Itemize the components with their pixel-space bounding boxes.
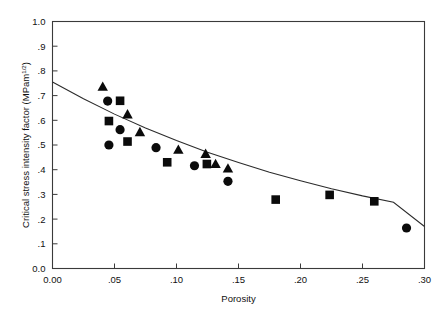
- data-point-circle-4: [190, 161, 199, 170]
- x-axis-title: Porosity: [221, 293, 256, 304]
- y-tick-label-9: .9: [38, 41, 46, 52]
- data-point-square-6: [325, 191, 334, 200]
- y-axis-title: Critical stress intensity factor (MPam1/…: [20, 62, 31, 228]
- y-tick-label-6: .6: [38, 115, 46, 126]
- x-tick-label-6: .30: [418, 274, 431, 285]
- y-tick-label-4: .4: [38, 164, 46, 175]
- data-point-square-4: [203, 160, 212, 169]
- y-tick-label-0: 0.0: [32, 263, 45, 274]
- data-point-circle-2: [115, 125, 124, 134]
- data-point-square-1: [116, 96, 125, 105]
- series-square-series: [105, 96, 379, 205]
- y-axis-title-main: Critical stress intensity factor (MPam: [20, 74, 31, 228]
- scatter-plot: 0.0.1.2.3.4.5.6.7.8.91.00.00.05.10.15.20…: [0, 0, 443, 314]
- data-point-circle-1: [104, 140, 113, 149]
- figure-container: 0.0.1.2.3.4.5.6.7.8.91.00.00.05.10.15.20…: [0, 0, 443, 314]
- data-point-triangle-2: [135, 127, 145, 136]
- data-point-square-0: [105, 117, 114, 126]
- y-tick-label-8: .8: [38, 65, 46, 76]
- data-point-square-5: [271, 195, 280, 204]
- y-tick-label-7: .7: [38, 90, 46, 101]
- x-tick-label-0: 0.00: [43, 274, 62, 285]
- data-point-triangle-5: [210, 159, 220, 168]
- data-point-circle-0: [103, 96, 112, 105]
- data-point-triangle-1: [122, 109, 132, 118]
- data-point-square-7: [370, 197, 379, 206]
- y-tick-label-1: .1: [38, 238, 46, 249]
- x-tick-label-3: .15: [232, 274, 245, 285]
- data-point-circle-5: [223, 177, 232, 186]
- data-point-triangle-0: [98, 81, 108, 90]
- data-point-square-2: [123, 137, 132, 146]
- y-tick-label-3: .3: [38, 189, 46, 200]
- x-tick-label-2: .10: [170, 274, 183, 285]
- data-point-triangle-6: [223, 163, 233, 172]
- y-tick-label-2: .2: [38, 214, 46, 225]
- y-tick-label-5: .5: [38, 139, 46, 150]
- x-tick-label-4: .20: [294, 274, 307, 285]
- data-points-layer: [98, 81, 412, 232]
- series-circle-series: [103, 96, 411, 232]
- axis-labels-layer: 0.0.1.2.3.4.5.6.7.8.91.00.00.05.10.15.20…: [20, 16, 431, 304]
- data-point-circle-3: [151, 143, 160, 152]
- x-tick-label-1: .05: [108, 274, 121, 285]
- data-point-square-3: [163, 158, 172, 167]
- data-point-circle-6: [402, 223, 411, 232]
- y-axis-title-group: Critical stress intensity factor (MPam1/…: [20, 62, 31, 228]
- y-axis-title-close: ): [20, 62, 31, 65]
- x-tick-label-5: .25: [356, 274, 369, 285]
- y-tick-label-10: 1.0: [32, 16, 45, 27]
- data-point-triangle-3: [173, 144, 183, 153]
